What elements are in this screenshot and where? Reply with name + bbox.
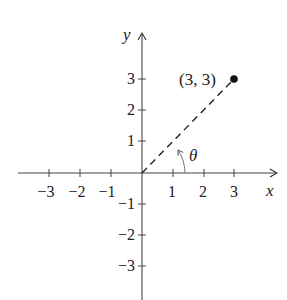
x-tick-label: −2 [68, 183, 85, 200]
x-tick-label: 1 [168, 183, 176, 200]
x-tick-label: 2 [199, 183, 207, 200]
x-tick-label: −3 [37, 183, 54, 200]
y-tick-label: −2 [118, 226, 135, 243]
x-tick-label: −1 [98, 183, 115, 200]
x-axis-label: x [265, 181, 274, 200]
point-label: (3, 3) [179, 70, 216, 89]
angle-arc [178, 150, 185, 173]
coordinate-plane: −3 −2 −1 1 2 3 3 2 1 −1 −2 −3 x y (3, 3)… [0, 0, 287, 300]
x-tick-labels: −3 −2 −1 1 2 3 [37, 183, 238, 200]
y-tick-labels: 3 2 1 −1 −2 −3 [118, 70, 135, 274]
theta-label: θ [189, 146, 197, 165]
x-tick-label: 3 [230, 183, 238, 200]
y-tick-label: 3 [127, 70, 135, 87]
y-axis-label: y [121, 25, 131, 44]
y-tick-label: 1 [127, 132, 135, 149]
y-tick-label: −3 [118, 257, 135, 274]
point-dot [230, 75, 238, 83]
y-tick-label: −1 [118, 195, 135, 212]
dashed-segment [142, 79, 234, 173]
y-tick-label: 2 [127, 101, 135, 118]
